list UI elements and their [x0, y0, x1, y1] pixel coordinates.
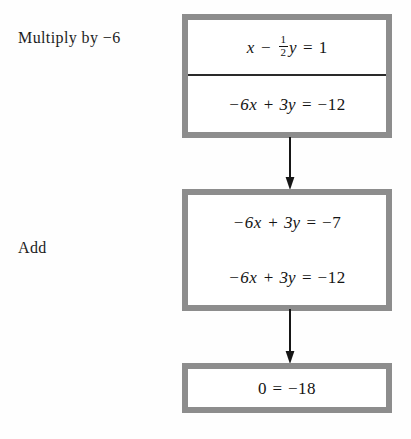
right-hand-side: 1 — [319, 39, 328, 56]
equation-row: x − 1 2 y = 1 — [188, 20, 386, 76]
term-3y: 3y — [279, 96, 296, 113]
result-box: 0 = −18 — [182, 363, 392, 413]
system-box-multiply: x − 1 2 y = 1 −6x + 3y = −12 — [182, 14, 392, 138]
equation-minus6x-plus-3y-eq-minus12: −6x + 3y = −12 — [228, 269, 345, 286]
equation-row: −6x + 3y = −7 — [188, 195, 386, 250]
equation-row: −6x + 3y = −12 — [188, 76, 386, 132]
equation-x-minus-half-y: x − 1 2 y = 1 — [247, 35, 327, 59]
equals-sign: = — [303, 39, 313, 56]
equals-sign: = — [302, 269, 312, 286]
operator-minus: − — [261, 39, 271, 56]
term-3y: 3y — [284, 214, 301, 231]
variable-y: y — [289, 39, 297, 56]
left-hand-side: 0 — [258, 380, 267, 397]
equation-zero-equals-minus18: 0 = −18 — [258, 380, 316, 397]
equation-row: −6x + 3y = −12 — [188, 250, 386, 305]
fraction-denominator: 2 — [279, 46, 289, 59]
equals-sign: = — [272, 380, 282, 397]
operator-plus: + — [268, 214, 278, 231]
fraction-numerator: 1 — [279, 34, 289, 46]
right-hand-side: −12 — [318, 96, 346, 113]
equals-sign: = — [302, 96, 312, 113]
diagram-canvas: Multiply by −6 Add x − 1 2 y = 1 −6x + 3… — [0, 0, 411, 439]
right-hand-side: −12 — [318, 269, 346, 286]
term-minus-6x: −6x — [233, 214, 263, 231]
fraction-one-half: 1 2 — [279, 34, 289, 58]
arrow-down-icon — [285, 137, 295, 191]
term-minus-6x: −6x — [228, 96, 258, 113]
variable-x: x — [247, 39, 255, 56]
equation-minus6x-plus-3y: −6x + 3y = −12 — [228, 96, 345, 113]
equation-minus6x-plus-3y-eq-minus7: −6x + 3y = −7 — [233, 214, 341, 231]
operator-plus: + — [264, 96, 274, 113]
term-minus-6x: −6x — [228, 269, 258, 286]
arrow-down-icon — [285, 309, 295, 365]
right-hand-side: −18 — [288, 380, 316, 397]
equals-sign: = — [306, 214, 316, 231]
equation-row: 0 = −18 — [188, 369, 386, 407]
term-3y: 3y — [279, 269, 296, 286]
operator-plus: + — [264, 269, 274, 286]
system-box-add: −6x + 3y = −7 −6x + 3y = −12 — [182, 189, 392, 311]
right-hand-side: −7 — [322, 214, 341, 231]
label-add: Add — [18, 239, 47, 257]
label-multiply-by: Multiply by −6 — [18, 29, 121, 47]
